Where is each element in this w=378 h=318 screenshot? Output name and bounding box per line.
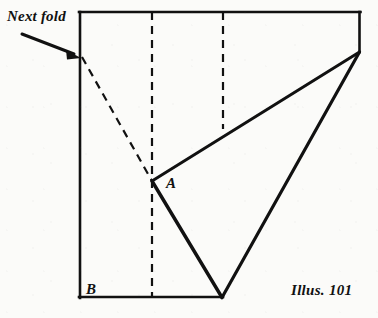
figure-drawing-canvas: [0, 0, 378, 318]
next-fold-annotation-label: Next fold: [7, 8, 66, 25]
solid-edge-group: [79, 12, 361, 298]
folded-flap-group: [152, 52, 360, 298]
fold-edge-a-to-bottom: [152, 181, 222, 298]
origami-illustration-figure: Next fold A B Illus. 101: [0, 0, 378, 318]
point-label-a: A: [166, 175, 176, 192]
fold-edge-a-to-corner: [152, 52, 360, 181]
next-fold-arrow: [22, 34, 81, 60]
dashed-fold-line-group: [82, 12, 223, 297]
point-label-b: B: [86, 281, 96, 298]
illustration-caption: Illus. 101: [291, 282, 352, 299]
fold-edge-right-diagonal: [222, 52, 360, 298]
fold-line-next-diagonal: [82, 57, 152, 181]
